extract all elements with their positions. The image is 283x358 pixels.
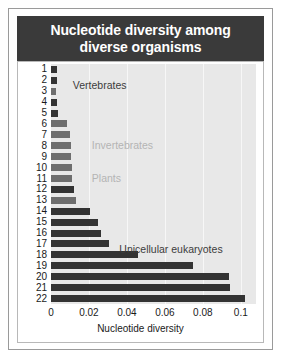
y-tick-label: 6 (41, 119, 47, 129)
y-tick-label: 19 (36, 261, 47, 271)
y-tick-label: 14 (36, 206, 47, 216)
bar-row (51, 293, 256, 304)
y-tick-label: 10 (36, 163, 47, 173)
x-tick-label: 0.04 (117, 307, 136, 319)
plot-annotation: Unicellular eukaryotes (119, 244, 222, 255)
x-axis-tick-labels: 00.020.040.060.080.1 (51, 307, 256, 321)
y-tick-label: 13 (36, 195, 47, 205)
bar-row (51, 64, 256, 75)
y-tick-label: 20 (36, 272, 47, 282)
chart-title: Nucleotide diversity among diverse organ… (50, 22, 230, 56)
bar-row (51, 217, 256, 228)
y-axis-tick-labels: 12345678910111213141516171819202122 (18, 64, 49, 304)
plot-annotation: Vertebrates (73, 80, 127, 91)
bar (51, 120, 67, 127)
y-tick-label: 4 (41, 97, 47, 107)
bar (51, 131, 70, 138)
y-tick-label: 22 (36, 294, 47, 304)
bar-row (51, 206, 256, 217)
plot-axes: VertebratesInvertebratesPlantsUnicellula… (51, 64, 256, 304)
bar (51, 110, 58, 117)
bar-row (51, 151, 256, 162)
chart-title-line-2: diverse organisms (79, 39, 201, 55)
bar-row (51, 162, 256, 173)
bar (51, 88, 56, 95)
bar (51, 142, 71, 149)
x-tick-label: 0.02 (79, 307, 98, 319)
chart-title-line-1: Nucleotide diversity among (50, 22, 230, 38)
figure-container: Nucleotide diversity among diverse organ… (8, 8, 273, 350)
y-tick-label: 16 (36, 228, 47, 238)
bar (51, 77, 57, 84)
y-tick-label: 7 (41, 130, 47, 140)
bar (51, 186, 74, 193)
bar (51, 219, 98, 226)
bar-row (51, 119, 256, 130)
y-tick-label: 11 (37, 174, 47, 184)
bar-series: VertebratesInvertebratesPlantsUnicellula… (51, 64, 256, 304)
bar (51, 197, 76, 204)
y-tick-label: 3 (41, 86, 47, 96)
bar (51, 262, 193, 269)
y-tick-label: 21 (36, 283, 47, 293)
chart-title-banner: Nucleotide diversity among diverse organ… (17, 16, 264, 61)
bar (51, 153, 71, 160)
bar (51, 164, 72, 171)
y-tick-label: 8 (41, 141, 47, 151)
plot-panel: 12345678910111213141516171819202122 Vert… (17, 61, 264, 343)
bar (51, 230, 101, 237)
x-tick-label: 0.06 (155, 307, 174, 319)
bar (51, 208, 90, 215)
bar-row (51, 97, 256, 108)
bar-row (51, 173, 256, 184)
y-tick-label: 15 (36, 217, 47, 227)
bar (51, 273, 229, 280)
y-tick-label: 2 (41, 75, 47, 85)
x-tick-label: 0.1 (234, 307, 248, 319)
bar (51, 99, 57, 106)
bar-row (51, 271, 256, 282)
bar (51, 66, 57, 73)
bar-row (51, 282, 256, 293)
bar-row (51, 195, 256, 206)
y-tick-label: 1 (41, 64, 47, 74)
bar-row (51, 140, 256, 151)
x-axis-title: Nucleotide diversity (18, 323, 263, 334)
y-tick-label: 5 (41, 108, 47, 118)
x-tick-label: 0 (48, 307, 54, 319)
y-tick-label: 17 (36, 239, 47, 249)
plot-annotation: Invertebrates (92, 140, 153, 151)
bar-row (51, 260, 256, 271)
bar-row (51, 228, 256, 239)
y-tick-label: 12 (36, 184, 47, 194)
bar (51, 175, 72, 182)
bar-row (51, 108, 256, 119)
y-tick-label: 18 (36, 250, 47, 260)
bar (51, 284, 230, 291)
bar (51, 240, 109, 247)
bar-row (51, 184, 256, 195)
plot-annotation: Plants (92, 173, 121, 184)
x-tick-label: 0.08 (193, 307, 212, 319)
y-tick-label: 9 (41, 152, 47, 162)
bar (51, 295, 245, 302)
bar-row (51, 129, 256, 140)
